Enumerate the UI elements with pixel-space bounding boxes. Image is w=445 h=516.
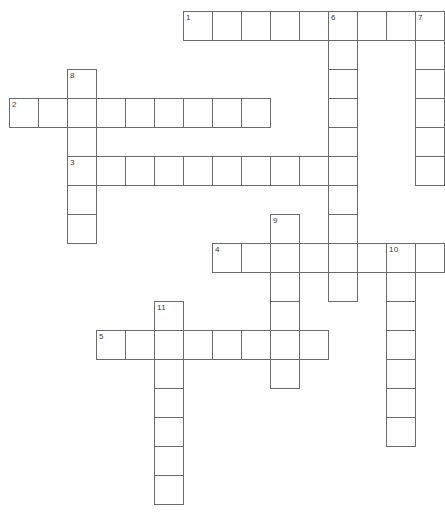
- crossword-cell[interactable]: [299, 243, 329, 273]
- crossword-cell[interactable]: [386, 11, 416, 41]
- crossword-cell[interactable]: [328, 69, 358, 99]
- crossword-cell-start-6[interactable]: 6: [328, 11, 358, 41]
- crossword-cell[interactable]: [154, 156, 184, 186]
- crossword-cell[interactable]: [270, 330, 300, 360]
- clue-number-8: 8: [70, 70, 75, 81]
- crossword-cell[interactable]: [67, 185, 97, 215]
- crossword-cell[interactable]: [357, 11, 387, 41]
- crossword-cell-start-4[interactable]: 4: [212, 243, 242, 273]
- crossword-cell[interactable]: [154, 475, 184, 505]
- crossword-cell[interactable]: [328, 156, 358, 186]
- crossword-cell[interactable]: [154, 446, 184, 476]
- clue-number-11: 11: [157, 302, 166, 313]
- clue-number-10: 10: [389, 244, 399, 255]
- crossword-cell[interactable]: [125, 330, 155, 360]
- crossword-cell[interactable]: [386, 272, 416, 302]
- crossword-cell[interactable]: [212, 98, 242, 128]
- crossword-cell-start-8[interactable]: 8: [67, 69, 97, 99]
- clue-number-2: 2: [12, 99, 17, 110]
- crossword-cell[interactable]: [154, 98, 184, 128]
- crossword-cell[interactable]: [386, 359, 416, 389]
- crossword-cell[interactable]: [386, 301, 416, 331]
- crossword-cell[interactable]: [241, 330, 271, 360]
- crossword-cell[interactable]: [386, 417, 416, 447]
- crossword-cell[interactable]: [154, 359, 184, 389]
- crossword-cell-start-7[interactable]: 7: [415, 11, 445, 41]
- crossword-cell[interactable]: [386, 388, 416, 418]
- crossword-cell[interactable]: [415, 40, 445, 70]
- clue-number-1: 1: [186, 12, 191, 23]
- crossword-cell[interactable]: [67, 98, 97, 128]
- crossword-cell[interactable]: [183, 156, 213, 186]
- crossword-cell[interactable]: [328, 98, 358, 128]
- crossword-cell[interactable]: [125, 98, 155, 128]
- crossword-cell[interactable]: [328, 40, 358, 70]
- crossword-cell[interactable]: [212, 11, 242, 41]
- crossword-cell-start-10[interactable]: 10: [386, 243, 416, 273]
- crossword-cell[interactable]: [270, 11, 300, 41]
- crossword-cell[interactable]: [212, 156, 242, 186]
- crossword-cell[interactable]: [241, 98, 271, 128]
- crossword-cell[interactable]: [415, 243, 445, 273]
- crossword-cell-start-9[interactable]: 9: [270, 214, 300, 244]
- crossword-cell[interactable]: [328, 185, 358, 215]
- crossword-cell[interactable]: [154, 388, 184, 418]
- crossword-cell-start-1[interactable]: 1: [183, 11, 213, 41]
- crossword-cell[interactable]: [212, 330, 242, 360]
- crossword-cell[interactable]: [154, 417, 184, 447]
- crossword-cell[interactable]: [415, 69, 445, 99]
- crossword-cell[interactable]: [154, 330, 184, 360]
- crossword-cell[interactable]: [96, 156, 126, 186]
- crossword-cell[interactable]: [67, 214, 97, 244]
- crossword-cell[interactable]: [357, 243, 387, 273]
- clue-number-7: 7: [418, 12, 423, 23]
- crossword-cell[interactable]: [328, 127, 358, 157]
- crossword-cell[interactable]: [415, 98, 445, 128]
- crossword-cell-start-11[interactable]: 11: [154, 301, 184, 331]
- crossword-cell[interactable]: [241, 11, 271, 41]
- crossword-cell[interactable]: [270, 156, 300, 186]
- crossword-cell[interactable]: [67, 127, 97, 157]
- crossword-cell[interactable]: [241, 243, 271, 273]
- crossword-cell[interactable]: [96, 98, 126, 128]
- clue-number-5: 5: [99, 331, 104, 342]
- crossword-cell[interactable]: [299, 156, 329, 186]
- crossword-cell-start-3[interactable]: 3: [67, 156, 97, 186]
- crossword-cell[interactable]: [38, 98, 68, 128]
- crossword-cell[interactable]: [270, 272, 300, 302]
- crossword-cell[interactable]: [328, 272, 358, 302]
- crossword-cell[interactable]: [125, 156, 155, 186]
- crossword-cell[interactable]: [241, 156, 271, 186]
- crossword-cell[interactable]: [328, 243, 358, 273]
- crossword-cell[interactable]: [183, 98, 213, 128]
- crossword-cell[interactable]: [299, 330, 329, 360]
- crossword-cell[interactable]: [415, 127, 445, 157]
- clue-number-6: 6: [331, 12, 336, 23]
- crossword-cell[interactable]: [299, 11, 329, 41]
- crossword-cell[interactable]: [415, 156, 445, 186]
- crossword-cell[interactable]: [183, 330, 213, 360]
- crossword-cell-start-5[interactable]: 5: [96, 330, 126, 360]
- crossword-cell[interactable]: [386, 330, 416, 360]
- clue-number-3: 3: [70, 157, 75, 168]
- crossword-cell[interactable]: [270, 359, 300, 389]
- clue-number-9: 9: [273, 215, 278, 226]
- crossword-cell[interactable]: [270, 301, 300, 331]
- crossword-cell[interactable]: [270, 243, 300, 273]
- clue-number-4: 4: [215, 244, 220, 255]
- crossword-cell-start-2[interactable]: 2: [9, 98, 39, 128]
- crossword-cell[interactable]: [328, 214, 358, 244]
